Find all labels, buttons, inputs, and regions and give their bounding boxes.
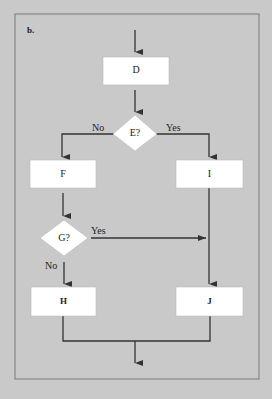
edge-label-g-no: No [45, 260, 57, 271]
node-i-label: I [176, 168, 243, 179]
arrow-e-no-f [62, 134, 114, 157]
edge-label-e-no: No [92, 122, 104, 133]
edge-label-g-yes: Yes [91, 225, 106, 236]
flowchart-canvas [0, 0, 272, 399]
node-g-label: G? [40, 232, 88, 243]
join-line [63, 316, 210, 341]
node-j-label: J [176, 296, 243, 306]
node-d-label: D [103, 64, 169, 75]
node-e-label: E? [113, 127, 157, 138]
node-f-label: F [30, 168, 96, 179]
node-h-label: H [31, 296, 96, 306]
edge-label-e-yes: Yes [166, 122, 181, 133]
panel-label: b. [27, 25, 34, 35]
arrow-e-yes-i [156, 134, 209, 157]
